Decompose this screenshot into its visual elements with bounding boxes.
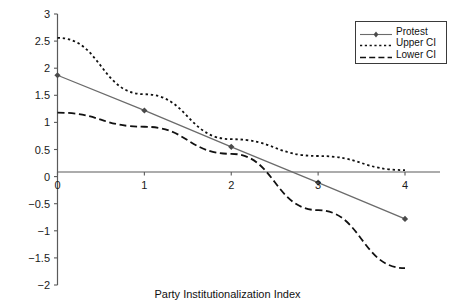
data-point-marker bbox=[54, 72, 60, 78]
series-line-upper-ci bbox=[58, 38, 406, 170]
y-tick-label: 2.5 bbox=[10, 35, 50, 47]
x-axis-title: Party Institutionalization Index bbox=[0, 288, 455, 300]
y-tick-label: 0.5 bbox=[10, 144, 50, 156]
chart-container: 32.521.510.50−0.5−1−1.5−2 01234 Party In… bbox=[0, 0, 455, 305]
x-tick-label: 3 bbox=[315, 179, 321, 191]
x-tick-label: 2 bbox=[228, 179, 234, 191]
x-tick-label: 4 bbox=[402, 179, 408, 191]
legend-item-lower-ci[interactable]: Lower CI bbox=[359, 49, 442, 60]
legend: Protest Upper CI Lower CI bbox=[355, 21, 447, 64]
legend-item-upper-ci[interactable]: Upper CI bbox=[359, 37, 442, 48]
y-tick-label: −1 bbox=[10, 225, 50, 237]
x-tick-label: 0 bbox=[54, 179, 60, 191]
data-point-marker bbox=[141, 107, 147, 113]
data-point-marker bbox=[402, 216, 408, 222]
legend-swatch-upper-ci bbox=[359, 37, 393, 48]
y-tick-label: 1.5 bbox=[10, 89, 50, 101]
y-tick-label: 1 bbox=[10, 116, 50, 128]
legend-swatch-lower-ci bbox=[359, 49, 393, 60]
series-layer bbox=[54, 38, 408, 268]
legend-label-upper-ci: Upper CI bbox=[396, 37, 436, 48]
legend-item-protest[interactable]: Protest bbox=[359, 26, 442, 37]
y-tick-label: −0.5 bbox=[10, 198, 50, 210]
legend-label-lower-ci: Lower CI bbox=[396, 49, 436, 60]
data-point-marker bbox=[228, 144, 234, 150]
x-tick-label: 1 bbox=[141, 179, 147, 191]
y-tick-label: 2 bbox=[10, 62, 50, 74]
y-tick-label: −1.5 bbox=[10, 252, 50, 264]
y-tick-label: 0 bbox=[10, 171, 50, 183]
y-tick-label: 3 bbox=[10, 8, 50, 20]
legend-swatch-protest bbox=[359, 26, 393, 37]
legend-label-protest: Protest bbox=[396, 26, 428, 37]
